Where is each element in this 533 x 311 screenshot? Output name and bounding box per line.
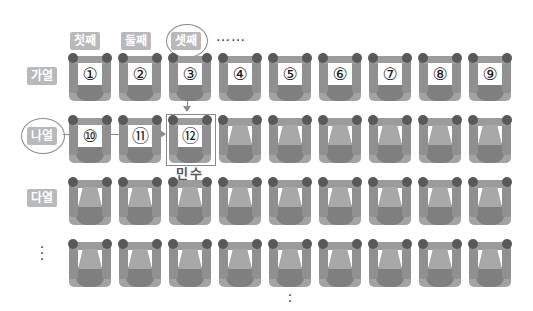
seat-backrest (128, 249, 152, 269)
seat-backrest (178, 249, 202, 269)
seat-knob-left (218, 239, 228, 249)
seat-knob-left (318, 239, 328, 249)
seat-knob-right (102, 53, 112, 63)
seat-knob-right (502, 115, 512, 125)
seat-backrest (328, 125, 352, 145)
seat-number: ⑧ (428, 63, 452, 85)
seat-backrest (328, 249, 352, 269)
seat-cushion (226, 205, 254, 225)
seat-knob-right (102, 239, 112, 249)
seat-knob-right (402, 177, 412, 187)
seat-backrest (78, 187, 102, 207)
seat-number: ⑤ (278, 63, 302, 85)
seat-knob-right (202, 53, 212, 63)
seat-backrest (78, 249, 102, 269)
seat-cushion (426, 143, 454, 163)
seat-backrest (428, 187, 452, 207)
seat-knob-left (118, 177, 128, 187)
seat (218, 239, 262, 289)
seat (318, 177, 362, 227)
seat-knob-left (118, 115, 128, 125)
seat: ③ (168, 53, 212, 103)
seat-knob-left (268, 53, 278, 63)
seat-knob-left (68, 115, 78, 125)
seat-backrest (378, 125, 402, 145)
seat: ⑫ (168, 115, 212, 165)
seat-number: ④ (228, 63, 252, 85)
seat (468, 239, 512, 289)
seat-cushion (326, 267, 354, 287)
seat-knob-right (502, 239, 512, 249)
seat-number: ⑨ (478, 63, 502, 85)
seat-knob-left (118, 239, 128, 249)
row-ellipsis: ··· (39, 244, 45, 262)
seat-number: ① (78, 63, 102, 85)
seat-knob-left (168, 177, 178, 187)
seat: ⑤ (268, 53, 312, 103)
seat-knob-right (302, 177, 312, 187)
seat-cushion (76, 205, 104, 225)
seat (218, 115, 262, 165)
seat-cushion (276, 205, 304, 225)
seat-knob-right (502, 177, 512, 187)
seat-knob-left (218, 115, 228, 125)
seat-cushion (76, 267, 104, 287)
seat (418, 239, 462, 289)
seat-knob-right (102, 115, 112, 125)
seat-knob-left (368, 177, 378, 187)
column-label-second: 둘째 (121, 32, 151, 50)
seat-knob-left (218, 53, 228, 63)
seat-knob-right (452, 239, 462, 249)
column-ellipsis: …… (216, 28, 246, 44)
seat-backrest (428, 125, 452, 145)
seat-knob-right (402, 53, 412, 63)
seat-knob-left (368, 239, 378, 249)
seat-knob-left (68, 53, 78, 63)
seat-cushion (176, 267, 204, 287)
seat-knob-left (68, 239, 78, 249)
seat-knob-left (168, 115, 178, 125)
seat-cushion (326, 205, 354, 225)
seat-backrest (228, 125, 252, 145)
seat-knob-right (152, 53, 162, 63)
seat-backrest (328, 187, 352, 207)
seat-knob-right (502, 53, 512, 63)
seat (118, 239, 162, 289)
bottom-ellipsis: ·· (287, 292, 293, 304)
seat-cushion (426, 267, 454, 287)
seat-knob-right (252, 239, 262, 249)
seat-knob-right (302, 115, 312, 125)
seat-knob-right (352, 177, 362, 187)
seat-knob-left (418, 53, 428, 63)
seat: ① (68, 53, 112, 103)
seat-cushion (276, 267, 304, 287)
seat (318, 115, 362, 165)
seat-backrest (278, 187, 302, 207)
seat-knob-right (252, 115, 262, 125)
seat-knob-left (468, 115, 478, 125)
seat-number: ⑩ (78, 125, 102, 147)
seat-knob-left (368, 115, 378, 125)
seat-cushion (376, 205, 404, 225)
seat-knob-right (352, 115, 362, 125)
seat-knob-left (468, 239, 478, 249)
seat-cushion (226, 143, 254, 163)
seat-knob-left (168, 239, 178, 249)
seat-knob-left (118, 53, 128, 63)
row-highlight-ellipse (21, 118, 65, 154)
seat: ⑪ (118, 115, 162, 165)
seat-knob-left (368, 53, 378, 63)
seat (268, 115, 312, 165)
seat-knob-right (202, 239, 212, 249)
seat-cushion (426, 205, 454, 225)
seat: ⑥ (318, 53, 362, 103)
seat: ② (118, 53, 162, 103)
seat-number: ⑦ (378, 63, 402, 85)
seat (368, 115, 412, 165)
seat-number: ⑪ (128, 125, 152, 147)
seat-backrest (478, 187, 502, 207)
seat-number: ② (128, 63, 152, 85)
seat-backrest (378, 187, 402, 207)
seat (268, 177, 312, 227)
seat-knob-left (268, 177, 278, 187)
